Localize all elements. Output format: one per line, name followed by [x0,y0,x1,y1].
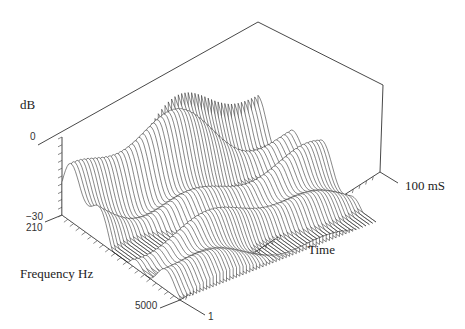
time-axis-label: Time [308,242,335,258]
time-tick-100ms: 100 mS [405,178,445,194]
frequency-axis-label: Frequency Hz [20,266,93,282]
freq-tick-5000: 5000 [135,300,157,311]
db-axis-label: dB [20,97,35,113]
db-tick-0: 0 [30,131,36,142]
freq-tick-210: 210 [26,222,43,233]
db-tick-minus30: −30 [26,211,43,222]
time-tick-1: 1 [208,311,214,322]
